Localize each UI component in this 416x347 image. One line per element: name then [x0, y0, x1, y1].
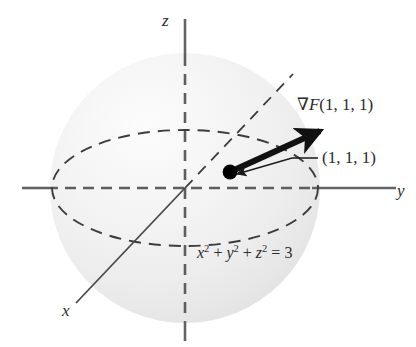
y-axis-label: y — [397, 182, 405, 199]
equation-plus-2: + — [239, 244, 256, 261]
nabla-icon: ∇ — [297, 95, 309, 114]
equation-plus-1: + — [209, 244, 226, 261]
figure-canvas — [0, 0, 416, 347]
equation-right-hand-side: 3 — [284, 244, 292, 261]
point-label: (1, 1, 1) — [322, 149, 376, 166]
equation-equals-sign: = — [267, 244, 284, 261]
gradient-function-name: F — [309, 95, 319, 114]
sphere-equation-label: x2 + y2 + z2 = 3 — [197, 244, 292, 261]
gradient-sphere-figure: z y x ∇F(1, 1, 1) (1, 1, 1) x2 + y2 + z2… — [0, 0, 416, 347]
z-axis-label: z — [162, 12, 169, 29]
equation-term-y: y — [226, 244, 233, 261]
point-marker-111 — [223, 165, 238, 180]
gradient-vector-label: ∇F(1, 1, 1) — [297, 96, 373, 113]
x-axis-label: x — [62, 302, 70, 319]
gradient-argument: (1, 1, 1) — [319, 95, 373, 114]
